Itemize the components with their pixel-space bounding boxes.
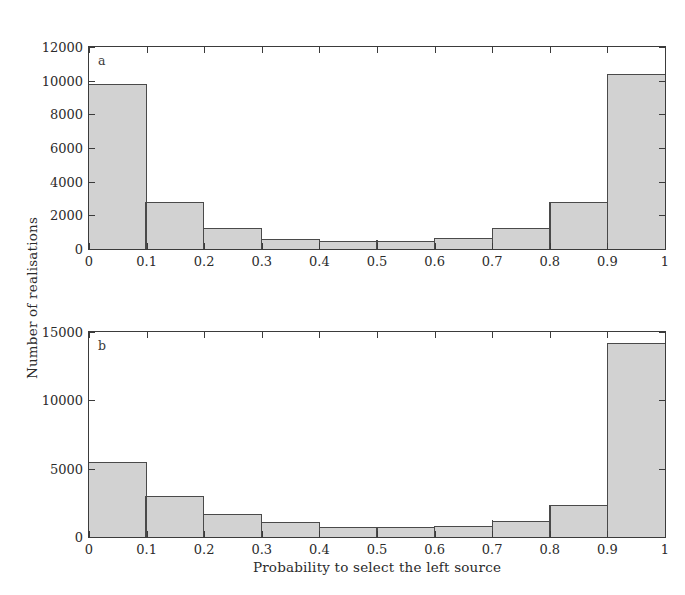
x-tick-bottom: [607, 531, 608, 537]
histogram-bar: [89, 84, 147, 249]
y-tick-label: 12000: [42, 40, 83, 55]
x-tick-bottom: [262, 531, 263, 537]
x-tick-top: [665, 332, 666, 338]
y-tick: [89, 249, 95, 250]
histogram-bar: [378, 527, 436, 537]
y-tick-label: 6000: [50, 141, 83, 156]
histogram-figure: Number of realisations a 020004000600080…: [0, 0, 685, 595]
y-tick-label: 10000: [42, 73, 83, 88]
y-tick-label: 0: [75, 530, 83, 545]
x-tick-bottom: [89, 243, 90, 249]
x-tick-bottom: [492, 531, 493, 537]
panel-a: a 02000400060008000100001200000.10.20.30…: [88, 46, 666, 250]
histogram-bar: [551, 505, 609, 537]
x-tick-label: 0.6: [424, 542, 445, 557]
x-tick-top: [147, 332, 148, 338]
y-tick: [89, 81, 95, 82]
x-tick-top: [319, 332, 320, 338]
panel-b: b 05000100001500000.10.20.30.40.50.60.70…: [88, 331, 666, 538]
y-tick: [89, 537, 95, 538]
x-tick-top: [89, 47, 90, 53]
x-tick-label: 0.2: [194, 542, 215, 557]
y-tick-label: 10000: [42, 393, 83, 408]
x-tick-label: 0.7: [482, 254, 503, 269]
histogram-bar: [147, 202, 205, 249]
panel-a-bars: [89, 47, 665, 249]
histogram-bar: [378, 241, 436, 249]
x-tick-bottom: [435, 243, 436, 249]
histogram-bar: [493, 521, 551, 537]
histogram-bar: [204, 514, 262, 537]
x-tick-bottom: [377, 531, 378, 537]
x-tick-bottom: [204, 531, 205, 537]
x-tick-top: [262, 47, 263, 53]
histogram-bar: [608, 343, 665, 537]
y-tick-mirror: [659, 537, 665, 538]
x-tick-label: 0.3: [251, 254, 272, 269]
x-tick-bottom: [147, 531, 148, 537]
x-tick-label: 0.2: [194, 254, 215, 269]
y-axis-label: Number of realisations: [24, 168, 40, 428]
y-tick-mirror: [659, 81, 665, 82]
x-tick-top: [607, 332, 608, 338]
histogram-bar: [262, 239, 320, 249]
histogram-bar: [435, 526, 493, 537]
y-tick: [89, 400, 95, 401]
x-tick-bottom: [319, 243, 320, 249]
x-tick-bottom: [377, 243, 378, 249]
y-tick-mirror: [659, 114, 665, 115]
x-tick-bottom: [147, 243, 148, 249]
x-tick-bottom: [550, 531, 551, 537]
x-tick-top: [204, 332, 205, 338]
x-tick-top: [550, 47, 551, 53]
y-tick-mirror: [659, 249, 665, 250]
x-tick-label: 0.5: [367, 542, 388, 557]
histogram-bar: [89, 462, 147, 537]
x-tick-bottom: [607, 243, 608, 249]
y-tick-label: 4000: [50, 174, 83, 189]
y-tick: [89, 114, 95, 115]
x-tick-label: 0.3: [251, 542, 272, 557]
x-tick-label: 0: [85, 254, 93, 269]
y-tick: [89, 469, 95, 470]
x-tick-top: [262, 332, 263, 338]
x-axis-label: Probability to select the left source: [88, 559, 666, 575]
histogram-bar: [320, 527, 378, 537]
panel-b-bars: [89, 332, 665, 537]
x-tick-bottom: [435, 531, 436, 537]
x-tick-label: 0.8: [539, 542, 560, 557]
y-tick-label: 8000: [50, 107, 83, 122]
x-tick-bottom: [665, 531, 666, 537]
x-tick-bottom: [550, 243, 551, 249]
x-tick-label: 0: [85, 542, 93, 557]
y-tick-label: 0: [75, 242, 83, 257]
x-tick-label: 0.5: [367, 254, 388, 269]
x-tick-label: 0.7: [482, 542, 503, 557]
x-tick-bottom: [665, 243, 666, 249]
x-tick-top: [319, 47, 320, 53]
x-tick-label: 1: [661, 254, 669, 269]
x-tick-label: 0.8: [539, 254, 560, 269]
x-tick-top: [435, 332, 436, 338]
x-tick-label: 0.9: [597, 254, 618, 269]
y-tick-mirror: [659, 215, 665, 216]
x-tick-label: 0.6: [424, 254, 445, 269]
histogram-bar: [493, 228, 551, 249]
y-tick: [89, 215, 95, 216]
x-tick-top: [377, 332, 378, 338]
y-tick-label: 5000: [50, 461, 83, 476]
x-tick-top: [550, 332, 551, 338]
histogram-bar: [435, 238, 493, 249]
x-tick-top: [147, 47, 148, 53]
y-tick-label: 2000: [50, 208, 83, 223]
x-tick-top: [665, 47, 666, 53]
histogram-bar: [320, 241, 378, 249]
x-tick-top: [492, 332, 493, 338]
x-tick-label: 0.1: [136, 542, 157, 557]
x-tick-top: [377, 47, 378, 53]
y-tick-mirror: [659, 182, 665, 183]
y-tick: [89, 182, 95, 183]
x-tick-bottom: [204, 243, 205, 249]
histogram-bar: [551, 202, 609, 249]
x-tick-bottom: [89, 531, 90, 537]
